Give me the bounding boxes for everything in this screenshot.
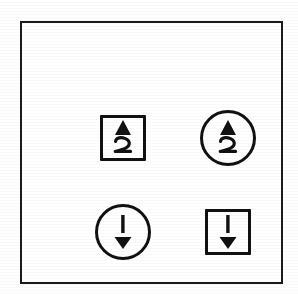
square-container <box>205 209 251 255</box>
outer-border-frame <box>20 21 283 284</box>
square-container <box>100 115 146 161</box>
down-arrow-icon <box>217 213 239 251</box>
symbol-circle-up-wavy[interactable] <box>185 95 271 181</box>
figure-canvas <box>0 0 298 294</box>
symbol-circle-down-arrow[interactable] <box>80 189 166 275</box>
circle-container <box>95 204 151 260</box>
symbol-square-up-wavy[interactable] <box>80 95 166 181</box>
down-arrow-icon <box>112 213 134 251</box>
circle-container <box>200 110 256 166</box>
symbol-square-down-arrow[interactable] <box>185 189 271 275</box>
up-wavy-arrow-icon <box>217 119 239 157</box>
up-wavy-arrow-icon <box>112 119 134 157</box>
